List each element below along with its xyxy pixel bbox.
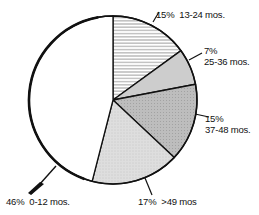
label-49-plus: 17% >49 mos [138, 196, 197, 207]
leader-49-plus [145, 178, 152, 195]
label-49-plus-pct: 17% [138, 196, 156, 207]
label-13-24-range: 13-24 mos. [179, 9, 225, 20]
label-13-24: 15% 13-24 mos. [156, 9, 225, 20]
pie-slices [29, 16, 197, 184]
label-49-plus-range: >49 mos [161, 196, 196, 207]
label-0-12: 46% 0-12 mos. [6, 196, 70, 207]
label-37-48: 15% 37-48 mos. [205, 113, 251, 135]
label-37-48-range: 37-48 mos. [205, 124, 251, 135]
leader-25-36 [189, 53, 202, 60]
leader-0-12-tip [28, 182, 44, 195]
label-25-36: 7% 25-36 mos. [204, 45, 250, 67]
label-25-36-pct: 7% [204, 45, 250, 56]
label-13-24-pct: 15% [156, 9, 174, 20]
label-0-12-range: 0-12 mos. [29, 196, 69, 207]
pie-chart [0, 0, 259, 215]
label-0-12-pct: 46% [6, 196, 24, 207]
label-25-36-range: 25-36 mos. [204, 56, 250, 67]
label-37-48-pct: 15% [205, 113, 251, 124]
